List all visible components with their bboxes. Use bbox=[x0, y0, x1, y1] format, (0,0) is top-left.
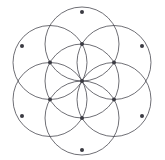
vertex-outer-upper-right bbox=[140, 44, 144, 48]
vertex-outer-upper-left bbox=[20, 44, 24, 48]
seed-of-life-figure bbox=[0, 0, 165, 160]
vertex-center bbox=[80, 79, 84, 83]
vertex-inner-lower-right bbox=[112, 98, 116, 102]
vertex-inner-top bbox=[80, 42, 84, 46]
vertex-inner-upper-right bbox=[112, 61, 116, 65]
vertex-outer-top bbox=[80, 10, 84, 14]
vertex-inner-bottom bbox=[80, 116, 84, 120]
vertex-outer-lower-right bbox=[140, 114, 144, 118]
vertex-inner-upper-left bbox=[48, 61, 52, 65]
vertex-inner-lower-left bbox=[48, 98, 52, 102]
vertex-outer-bottom bbox=[80, 148, 84, 152]
seed-of-life-canvas bbox=[0, 0, 165, 160]
vertex-outer-lower-left bbox=[20, 114, 24, 118]
